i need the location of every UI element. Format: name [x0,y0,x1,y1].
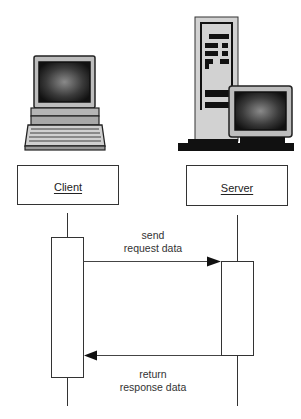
request-label-line2: request data [100,242,206,255]
client-label: Client [17,181,119,193]
response-label-line2: response data [100,381,206,394]
server-activation [222,262,254,356]
response-label: return response data [100,368,206,394]
client-activation [52,238,84,378]
response-label-line1: return [100,368,206,381]
sequence-diagram [0,0,301,419]
server-label: Server [186,182,288,194]
request-arrowhead-icon [207,257,221,267]
response-arrowhead-icon [84,351,97,361]
request-label-line1: send [100,229,206,242]
request-label: send request data [100,229,206,255]
